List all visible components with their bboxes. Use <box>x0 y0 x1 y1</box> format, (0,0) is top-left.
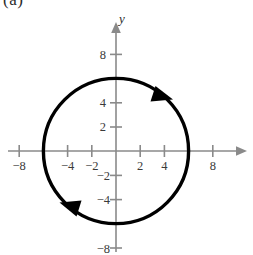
y-tick-label-4: 4 <box>100 96 107 110</box>
y-tick-label--8: −8 <box>97 242 110 255</box>
x-tick-label--4: −4 <box>61 159 75 173</box>
y-axis-label: y <box>117 11 125 26</box>
x-tick-label-2: 2 <box>137 159 143 173</box>
y-axis <box>111 22 121 252</box>
y-tick-label-8: 8 <box>100 48 106 62</box>
x-tick-label-8: 8 <box>210 159 216 173</box>
x-tick-label--8: −8 <box>13 159 26 173</box>
x-axis-arrowhead <box>236 146 247 156</box>
x-tick-label-4: 4 <box>161 159 168 173</box>
y-tick-label--4: −4 <box>97 193 111 207</box>
y-tick-label--2: −2 <box>97 169 110 183</box>
figure-panel: (a) <box>0 0 253 255</box>
coordinate-plot: −8 −4 −2 2 4 8 8 4 2 −2 −4 −8 y <box>0 0 253 255</box>
y-tick-label-2: 2 <box>100 120 106 134</box>
